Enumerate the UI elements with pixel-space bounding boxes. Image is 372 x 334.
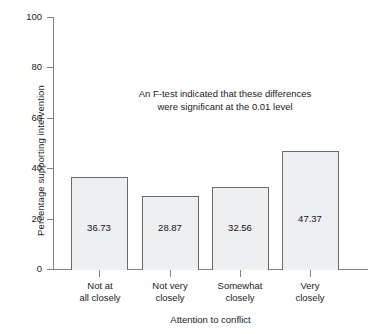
y-axis-tick-40 [47,168,54,169]
x-axis-title: Attention to conflict [53,314,368,325]
y-axis-tick-80 [47,67,54,68]
y-axis-tick-0 [47,269,54,270]
y-axis-tick-label-0: 0 [2,264,42,273]
annotation-line-2: were significant at the 0.01 level [85,101,365,114]
y-axis-tick-100 [47,17,54,18]
x-axis-tick-2 [170,270,171,277]
bar-not-very-closely[interactable] [142,196,199,270]
annotation-line-1: An F-test indicated that these differenc… [85,88,365,101]
bar-value-somewhat-closely: 32.56 [205,223,275,233]
x-axis-label-very-closely: Very closely [264,280,356,303]
x-axis-tick-1 [99,270,100,277]
y-axis-tick-20 [47,219,54,220]
bar-value-not-at-all-closely: 36.73 [64,223,134,233]
y-axis-tick-60 [47,118,54,119]
bar-very-closely[interactable] [282,151,339,270]
x-axis-tick-3 [240,270,241,277]
bar-value-very-closely: 47.37 [275,214,345,224]
y-axis-title: Percentage supporting intervention [35,41,46,281]
x-axis-label-line-1: Very [264,280,356,292]
y-axis-tick-label-100: 100 [2,12,42,21]
annotation-text: An F-test indicated that these differenc… [85,88,365,113]
bar-chart: Percentage supporting intervention 0 20 … [0,0,372,334]
y-axis-tick-label-60: 60 [2,113,42,122]
bar-value-not-very-closely: 28.87 [135,223,205,233]
x-axis-label-line-2: closely [264,292,356,304]
y-axis-tick-label-40: 40 [2,163,42,172]
y-axis-tick-label-80: 80 [2,62,42,71]
y-axis-tick-label-20: 20 [2,214,42,223]
x-axis-tick-4 [310,270,311,277]
y-axis-line [53,17,54,270]
